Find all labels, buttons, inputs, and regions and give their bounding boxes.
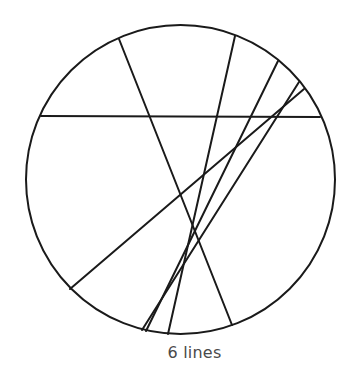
chord-line-5 <box>142 82 299 330</box>
chord-lines <box>41 36 320 334</box>
chord-line-2 <box>119 39 232 325</box>
chord-line-3 <box>168 36 235 334</box>
chord-line-4 <box>146 61 278 331</box>
diagram-caption: 6 lines <box>0 343 349 362</box>
circle-lines-diagram <box>0 0 349 367</box>
